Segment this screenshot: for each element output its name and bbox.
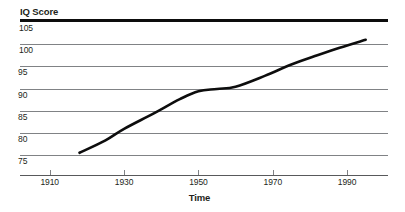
- series-layer: [0, 0, 405, 212]
- x-axis-title-wrap: Time: [0, 192, 405, 203]
- iq-score-line-chart: IQ Score 1051009590858075 19101930195019…: [0, 0, 405, 212]
- series-line-iq-score: [79, 40, 365, 153]
- x-axis-title: Time: [189, 192, 211, 203]
